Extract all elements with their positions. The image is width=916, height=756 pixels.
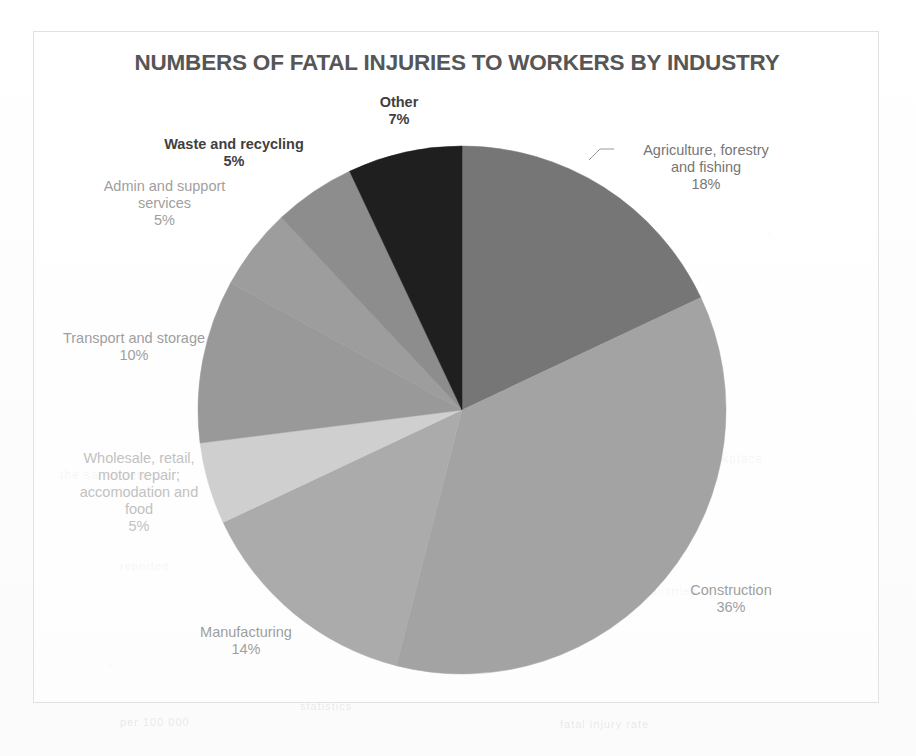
pie-slice-label: Transport and storage10% <box>29 330 239 364</box>
pie-slice-label: Agriculture, forestry and fishing18% <box>606 142 806 193</box>
pie-slice-label-text: Other <box>380 94 419 110</box>
pie-slice-label-percent: 18% <box>606 176 806 193</box>
bleed-text: per 100 000 <box>120 716 190 728</box>
pie-slice-label-text: Admin and support services <box>104 178 226 211</box>
pie-slice-label-text: Waste and recycling <box>164 136 304 152</box>
pie-slice-label-text: Agriculture, forestry and fishing <box>643 142 769 175</box>
pie-slice-label-percent: 7% <box>334 111 464 128</box>
pie-slice-label-text: Manufacturing <box>200 624 292 640</box>
pie-slice-label-percent: 5% <box>139 153 329 170</box>
pie-slice-label-percent: 5% <box>44 518 234 535</box>
pie-slice-label: Other7% <box>334 94 464 128</box>
pie-slice-label-text: Construction <box>690 582 771 598</box>
pie-slice-label: Waste and recycling5% <box>139 136 329 170</box>
pie-chart-plot-area: Agriculture, forestry and fishing18%Cons… <box>34 32 880 704</box>
pie-slice-label-percent: 14% <box>156 641 336 658</box>
pie-slice-label: Wholesale, retail, motor repair; accomod… <box>44 450 234 536</box>
bleed-text: fatal injury rate <box>560 718 649 730</box>
pie-slice-label: Admin and support services5% <box>72 178 257 229</box>
pie-slice-label-percent: 36% <box>646 599 816 616</box>
pie-slice-label-text: Transport and storage <box>63 330 205 346</box>
pie-slice-label: Manufacturing14% <box>156 624 336 658</box>
chart-frame: NUMBERS OF FATAL INJURIES TO WORKERS BY … <box>33 31 879 703</box>
pie-slice-label-percent: 10% <box>29 347 239 364</box>
pie-slice-label-text: Wholesale, retail, motor repair; accomod… <box>80 450 199 517</box>
pie-slice-label: Construction36% <box>646 582 816 616</box>
pie-slice-label-percent: 5% <box>72 212 257 229</box>
